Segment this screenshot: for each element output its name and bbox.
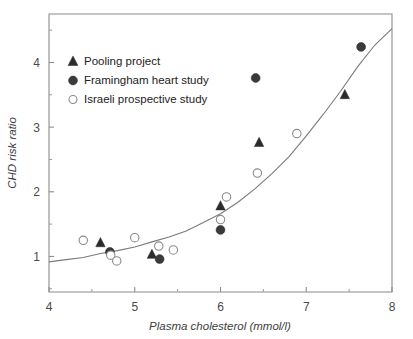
x-axis-ticks: [49, 287, 392, 292]
series-israeli-prospective-study: [79, 129, 301, 265]
y-tick-label: 3: [33, 121, 40, 135]
data-point-open-circle: [253, 169, 261, 177]
y-tick-label: 4: [33, 56, 40, 70]
chart-legend: Pooling projectFramingham heart studyIsr…: [68, 55, 209, 105]
data-point-filled-circle: [357, 43, 366, 52]
legend-item-framingham-heart-study: Framingham heart study: [69, 74, 209, 86]
legend-item-pooling-project: Pooling project: [68, 55, 161, 67]
data-point-open-circle: [216, 215, 224, 223]
data-point-open-circle: [293, 129, 301, 137]
legend-item-label: Framingham heart study: [84, 74, 209, 86]
data-point-open-circle: [222, 193, 230, 201]
x-tick-label: 6: [217, 300, 224, 314]
data-point-filled-circle: [216, 226, 225, 235]
x-tick-label: 5: [131, 300, 138, 314]
data-point-filled-circle: [155, 255, 164, 264]
y-axis-title: CHD risk ratio: [6, 117, 18, 189]
data-point-open-circle: [169, 246, 177, 254]
data-point-open-circle: [155, 242, 163, 250]
legend-item-label: Pooling project: [84, 55, 161, 67]
data-point-triangle: [216, 201, 225, 210]
data-point-open-circle: [79, 236, 87, 244]
data-point-filled-circle: [251, 74, 260, 83]
y-axis-ticks: [49, 30, 54, 289]
y-tick-label: 2: [33, 185, 40, 199]
x-axis-title: Plasma cholesterol (mmol/l): [149, 320, 291, 332]
legend-marker-filled-circle: [69, 76, 78, 85]
x-tick-label: 8: [389, 300, 396, 314]
data-point-triangle: [340, 89, 349, 98]
legend-marker-open-circle: [69, 96, 77, 104]
chart-canvas: 45678 1234 Pooling projectFramingham hea…: [0, 0, 413, 339]
data-point-open-circle: [131, 233, 139, 241]
data-point-triangle: [147, 249, 156, 258]
data-point-open-circle: [113, 257, 121, 265]
x-tick-label: 4: [46, 300, 53, 314]
x-axis-tick-labels: 45678: [46, 300, 396, 314]
legend-item-israeli-prospective-study: Israeli prospective study: [69, 93, 208, 105]
data-point-triangle: [254, 137, 263, 146]
x-tick-label: 7: [303, 300, 310, 314]
legend-marker-triangle: [68, 56, 78, 66]
legend-item-label: Israeli prospective study: [84, 93, 208, 105]
y-tick-label: 1: [33, 250, 40, 264]
data-point-triangle: [96, 238, 105, 247]
chd-risk-scatter-chart: 45678 1234 Pooling projectFramingham hea…: [0, 0, 413, 339]
y-axis-tick-labels: 1234: [33, 56, 40, 264]
